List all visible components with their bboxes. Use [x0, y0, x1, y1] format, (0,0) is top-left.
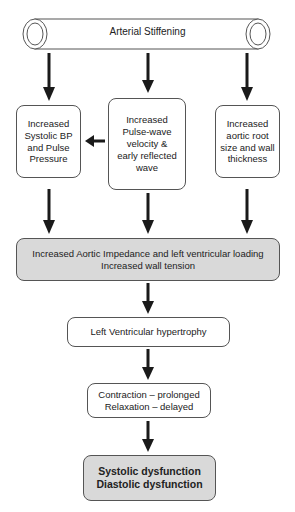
arrow-down-icon — [142, 283, 154, 314]
box-text: Pressure — [24, 153, 72, 165]
box-text: velocity & — [117, 138, 177, 150]
box-text: Contraction – prolonged — [98, 389, 199, 401]
arrow-left-icon — [85, 135, 105, 147]
box-text: Systolic BP — [24, 130, 72, 142]
aortic-impedance-box: Increased Aortic Impedance and left vent… — [16, 238, 280, 281]
arrow-down-icon — [142, 421, 154, 452]
box-text: Increased wall tension — [32, 260, 263, 272]
arrow-down-icon — [43, 53, 55, 101]
arrow-down-icon — [142, 349, 154, 380]
arrow-down-icon — [241, 189, 253, 234]
arrow-down-icon — [142, 193, 154, 234]
arrow-down-icon — [142, 53, 154, 93]
systolic-bp-box: Increased Systolic BP and Pulse Pressure — [16, 105, 81, 178]
arrow-down-icon — [241, 53, 253, 101]
box-text: and Pulse — [24, 142, 72, 154]
box-text: early reflected — [117, 150, 177, 162]
box-text: Increased Aortic Impedance and left vent… — [32, 248, 263, 260]
dysfunction-box: Systolic dysfunction Diastolic dysfuncti… — [83, 455, 216, 501]
arterial-stiffening-label: Arterial Stiffening — [60, 26, 235, 37]
box-text: Left Ventricular hypertrophy — [90, 326, 206, 338]
box-text: wave — [117, 162, 177, 174]
box-text: Increased — [220, 118, 274, 130]
box-text: thickness — [220, 153, 274, 165]
box-text: aortic root — [220, 130, 274, 142]
contraction-relaxation-box: Contraction – prolonged Relaxation – del… — [87, 383, 211, 418]
box-text: Diastolic dysfunction — [96, 478, 202, 491]
box-text: Increased — [117, 114, 177, 126]
box-text: Pulse-wave — [117, 126, 177, 138]
arrow-down-icon — [43, 189, 55, 234]
box-text: size and wall — [220, 142, 274, 154]
lvh-box: Left Ventricular hypertrophy — [67, 317, 230, 347]
aortic-root-box: Increased aortic root size and wall thic… — [215, 105, 280, 178]
pulse-wave-velocity-box: Increased Pulse-wave velocity & early re… — [108, 98, 186, 190]
box-text: Systolic dysfunction — [96, 465, 202, 478]
box-text: Relaxation – delayed — [98, 401, 199, 413]
box-text: Increased — [24, 118, 72, 130]
